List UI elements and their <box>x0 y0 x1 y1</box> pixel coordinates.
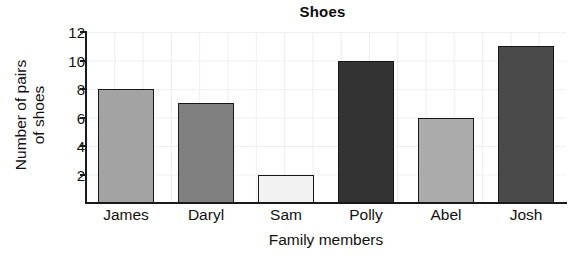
x-tick-label-josh: Josh <box>486 206 566 223</box>
y-axis-title-line-1: Number of pairs <box>12 60 30 170</box>
bar-polly <box>338 61 394 204</box>
bar-james <box>98 89 154 203</box>
bar-abel <box>418 118 474 204</box>
x-axis-title: Family members <box>86 231 566 249</box>
bar-chart-figure: Shoes Number of pairs of shoes 24681012 … <box>0 0 587 266</box>
chart-title: Shoes <box>0 3 587 20</box>
bars-layer <box>86 32 566 203</box>
x-tick-label-james: James <box>86 206 166 223</box>
y-axis-title: Number of pairs of shoes <box>4 26 56 204</box>
x-tick-label-polly: Polly <box>326 206 406 223</box>
bar-daryl <box>178 103 234 203</box>
y-axis-title-text: Number of pairs of shoes <box>12 60 49 170</box>
x-tick-label-daryl: Daryl <box>166 206 246 223</box>
bar-josh <box>498 46 554 203</box>
y-axis-title-line-2: of shoes <box>30 60 48 170</box>
x-tick-label-sam: Sam <box>246 206 326 223</box>
x-tick-label-abel: Abel <box>406 206 486 223</box>
bar-sam <box>258 175 314 204</box>
